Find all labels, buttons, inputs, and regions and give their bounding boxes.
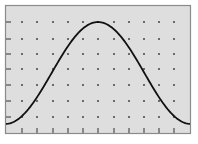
grid-dot xyxy=(113,100,115,102)
grid-dot xyxy=(173,100,175,102)
grid-dot xyxy=(21,53,23,55)
grid-dot xyxy=(21,84,23,86)
grid-dot xyxy=(82,21,84,23)
grid-dot xyxy=(128,21,130,23)
grid-dot xyxy=(36,68,38,70)
grid-dot xyxy=(36,84,38,86)
line-chart xyxy=(0,0,198,144)
grid-dot xyxy=(143,68,145,70)
grid-dot xyxy=(36,38,38,40)
grid-dot xyxy=(158,68,160,70)
grid-dot xyxy=(113,84,115,86)
grid-dot xyxy=(158,38,160,40)
grid-dot xyxy=(128,84,130,86)
grid-dot xyxy=(82,116,84,118)
grid-dot xyxy=(36,116,38,118)
grid-dot xyxy=(128,53,130,55)
grid-dot xyxy=(36,53,38,55)
grid-dot xyxy=(82,68,84,70)
grid-dot xyxy=(97,68,99,70)
grid-dot xyxy=(21,21,23,23)
grid-dot xyxy=(67,68,69,70)
grid-dot xyxy=(52,84,54,86)
grid-dot xyxy=(128,38,130,40)
grid-dot xyxy=(97,84,99,86)
grid-dot xyxy=(36,100,38,102)
grid-dot xyxy=(52,38,54,40)
grid-dot xyxy=(97,116,99,118)
grid-dot xyxy=(52,53,54,55)
grid-dot xyxy=(143,116,145,118)
grid-dot xyxy=(67,84,69,86)
grid-dot xyxy=(113,53,115,55)
grid-dot xyxy=(97,38,99,40)
grid-dot xyxy=(173,38,175,40)
grid-dot xyxy=(113,68,115,70)
grid-dot xyxy=(52,21,54,23)
grid-dot xyxy=(128,100,130,102)
grid-dot xyxy=(97,53,99,55)
grid-dot xyxy=(21,100,23,102)
grid-dot xyxy=(143,100,145,102)
grid-dot xyxy=(82,100,84,102)
grid-dot xyxy=(158,116,160,118)
grid-dot xyxy=(143,84,145,86)
grid-dot xyxy=(128,68,130,70)
grid-dot xyxy=(143,21,145,23)
grid-dot xyxy=(97,100,99,102)
grid-dot xyxy=(67,21,69,23)
grid-dot xyxy=(67,38,69,40)
grid-dot xyxy=(113,38,115,40)
grid-dot xyxy=(113,21,115,23)
grid-dot xyxy=(21,68,23,70)
grid-dot xyxy=(82,38,84,40)
grid-dot xyxy=(143,38,145,40)
grid-dot xyxy=(158,100,160,102)
grid-dot xyxy=(82,84,84,86)
grid-dot xyxy=(36,21,38,23)
grid-dot xyxy=(173,21,175,23)
grid-dot xyxy=(158,84,160,86)
grid-dot xyxy=(52,116,54,118)
grid-dot xyxy=(113,116,115,118)
grid-dot xyxy=(67,100,69,102)
grid-dot xyxy=(143,53,145,55)
grid-dot xyxy=(173,84,175,86)
grid-dot xyxy=(52,100,54,102)
grid-dot xyxy=(173,53,175,55)
grid-dot xyxy=(67,53,69,55)
grid-dot xyxy=(67,116,69,118)
grid-dot xyxy=(158,53,160,55)
grid-dot xyxy=(82,53,84,55)
grid-dot xyxy=(128,116,130,118)
grid-dot xyxy=(173,68,175,70)
grid-dot xyxy=(21,38,23,40)
grid-dot xyxy=(158,21,160,23)
